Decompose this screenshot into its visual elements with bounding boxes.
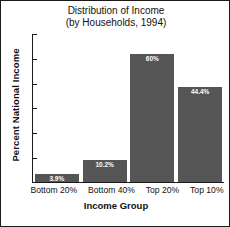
y-axis-label: Percent National Income	[10, 48, 21, 161]
bar-bottom-40[interactable]: 10.2%	[83, 160, 127, 182]
bar-value-label: 44.4%	[178, 88, 222, 95]
bar-slot: 60%	[130, 34, 174, 182]
bar-top-10[interactable]: 44.4%	[178, 87, 222, 182]
bar-value-label: 3.9%	[35, 175, 79, 182]
chart-title: Distribution of Income (by Households, 1…	[1, 5, 230, 29]
bar-value-label: 10.2%	[83, 161, 127, 168]
bar-bottom-20[interactable]: 3.9%	[35, 174, 79, 182]
category-label-top-20: Top 20%	[146, 185, 179, 195]
chart-title-line-1: Distribution of Income	[1, 5, 230, 17]
x-axis-category-labels: Bottom 20% Bottom 40% Top 20% Top 10%	[25, 185, 229, 195]
category-label-bottom-40: Bottom 40%	[88, 185, 135, 195]
category-label-bottom-20: Bottom 20%	[30, 185, 77, 195]
bar-slot: 44.4%	[178, 34, 222, 182]
bar-slot: 3.9%	[35, 34, 79, 182]
category-label-top-10: Top 10%	[190, 185, 223, 195]
y-axis-label-container: Percent National Income	[7, 35, 23, 175]
bar-top-20[interactable]: 60%	[130, 54, 174, 182]
chart-title-line-2: (by Households, 1994)	[1, 17, 230, 29]
x-axis-label: Income Group	[1, 200, 230, 211]
income-distribution-bar-chart: Distribution of Income (by Households, 1…	[0, 0, 230, 227]
bar-series: 3.9% 10.2% 60% 44.4%	[33, 34, 224, 182]
plot-area: 3.9% 10.2% 60% 44.4%	[32, 34, 224, 183]
x-axis-line	[32, 182, 224, 183]
bar-slot: 10.2%	[83, 34, 127, 182]
bar-value-label: 60%	[130, 55, 174, 62]
